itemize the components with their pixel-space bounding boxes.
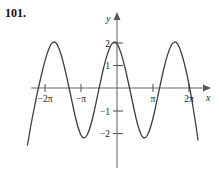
x-tick-label-negpi: −π bbox=[76, 94, 86, 104]
y-tick-label-neg2: −2 bbox=[100, 129, 110, 139]
x-tick-label-2pi: 2π bbox=[184, 94, 194, 104]
graph-canvas: y x −2π −π π 2π 2 1 −1 −2 bbox=[0, 0, 219, 174]
y-axis bbox=[114, 12, 121, 168]
x-axis-arrow-icon bbox=[203, 84, 211, 91]
x-axis-label: x bbox=[205, 92, 211, 103]
y-axis-arrow-icon bbox=[114, 12, 121, 20]
y-tick-label-neg1: −1 bbox=[100, 107, 110, 117]
x-tick-label-pi: π bbox=[151, 94, 156, 104]
y-tick-label-2: 2 bbox=[105, 39, 110, 49]
figure-container: 101. y x bbox=[0, 0, 219, 174]
y-tick-label-1: 1 bbox=[105, 61, 110, 71]
x-tick-label-neg2pi: −2π bbox=[38, 94, 53, 104]
x-axis bbox=[31, 84, 211, 91]
curve-path bbox=[28, 42, 199, 145]
y-axis-label: y bbox=[105, 13, 111, 24]
